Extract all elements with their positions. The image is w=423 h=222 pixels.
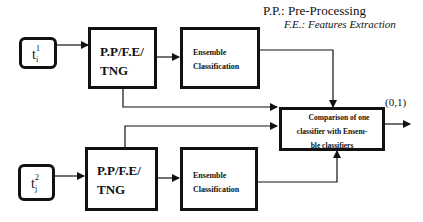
input-t2-box: t2j bbox=[18, 164, 55, 201]
ensemble-box-2: Ensemble Classification bbox=[180, 147, 258, 211]
legend-preprocessing: P.P.: Pre-Processing bbox=[263, 3, 366, 19]
input-t1-label: t1i bbox=[32, 46, 38, 64]
input-t1-box: t1i bbox=[19, 37, 57, 69]
preprocess-box-2: P.P/F.E/ TNG bbox=[85, 147, 158, 211]
ensemble-box-1: Ensemble Classification bbox=[180, 27, 260, 89]
preprocess-label-1: P.P/F.E/ TNG bbox=[100, 42, 144, 80]
comparison-label: Comparison of one classifier with Ensem-… bbox=[282, 111, 382, 153]
preprocess-label-2: P.P/F.E/ TNG bbox=[97, 161, 141, 199]
ensemble-label-1: Ensemble Classification bbox=[193, 46, 239, 74]
ensemble-label-2: Ensemble Classification bbox=[193, 169, 239, 197]
output-label: (0,1) bbox=[385, 96, 406, 108]
comparison-box: Comparison of one classifier with Ensem-… bbox=[279, 107, 385, 151]
input-t2-label: t2j bbox=[31, 175, 37, 193]
legend-features-extraction: F.E.: Features Extraction bbox=[284, 18, 396, 30]
preprocess-box-1: P.P/F.E/ TNG bbox=[88, 27, 157, 89]
